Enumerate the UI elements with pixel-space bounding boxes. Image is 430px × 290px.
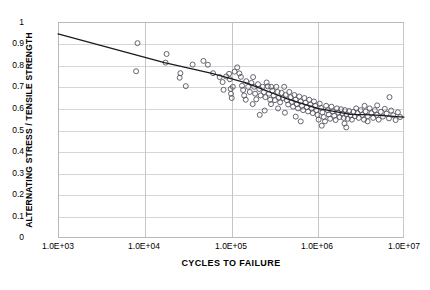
data-point <box>367 106 372 111</box>
data-point <box>282 84 287 89</box>
data-point <box>247 89 252 94</box>
data-point <box>316 117 321 122</box>
data-point <box>297 94 302 99</box>
data-point <box>372 108 377 113</box>
data-point <box>220 80 225 85</box>
data-point <box>375 103 380 108</box>
data-point <box>183 84 188 89</box>
data-point <box>164 51 169 56</box>
data-point <box>391 113 396 118</box>
data-point <box>262 108 267 113</box>
data-point <box>387 95 392 100</box>
data-point <box>274 84 279 89</box>
data-point <box>329 104 334 109</box>
data-point <box>298 119 303 124</box>
scatter-points <box>134 41 403 130</box>
data-point <box>135 41 140 46</box>
data-point <box>389 108 394 113</box>
data-point <box>257 112 262 117</box>
data-point <box>201 58 206 63</box>
data-point <box>255 82 260 87</box>
data-layer <box>0 0 430 290</box>
data-point <box>243 97 248 102</box>
data-point <box>235 65 240 70</box>
data-point <box>319 123 324 128</box>
data-point <box>395 110 400 115</box>
data-point <box>362 103 367 108</box>
data-point <box>276 106 281 111</box>
data-point <box>134 69 139 74</box>
data-point <box>287 89 292 94</box>
data-point <box>293 114 298 119</box>
data-point <box>254 97 259 102</box>
data-point <box>205 62 210 67</box>
data-point <box>251 75 256 80</box>
data-point <box>250 102 255 107</box>
data-point <box>221 87 226 92</box>
data-point <box>190 62 195 67</box>
data-point <box>302 96 307 101</box>
data-point <box>315 112 320 117</box>
data-point <box>382 106 387 111</box>
data-point <box>393 118 398 123</box>
data-point <box>307 97 312 102</box>
chart-root: 1 0.9 0.8 0.7 0.6 0.5 0.4 0.3 0.2 0.1 0 … <box>0 0 430 290</box>
data-point <box>253 91 258 96</box>
data-point <box>358 108 363 113</box>
data-point <box>282 110 287 115</box>
